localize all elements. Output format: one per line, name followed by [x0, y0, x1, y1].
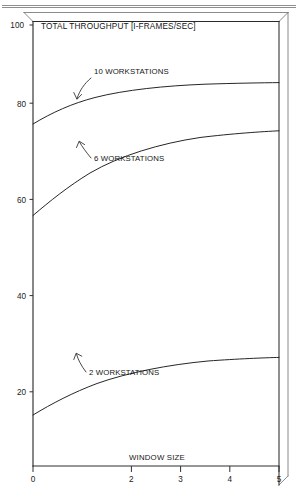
- annotation-label-6-workstations: 6 WORKSTATIONS: [94, 154, 164, 163]
- annotation-label-2-workstations: 2 WORKSTATIONS: [89, 368, 159, 377]
- annotation-label-10-workstations: 10 WORKSTATIONS: [94, 67, 169, 76]
- annotation-10-workstations: 10 WORKSTATIONS: [74, 67, 169, 99]
- page-artifact: [2, 6, 296, 8]
- chart-axes: [30, 22, 280, 473]
- figure-root: 100 80 60 40 20 0 2 3 4 5 TOTAL THROUGHP…: [0, 0, 298, 503]
- annotation-2-workstations: 2 WORKSTATIONS: [74, 353, 159, 377]
- x-axis-tick-labels: 0 2 3 4 5: [31, 475, 282, 484]
- leader-line-6-workstations: [80, 142, 92, 158]
- series-curve-2-workstations: [33, 357, 279, 415]
- series-curve-10-workstations: [33, 83, 279, 124]
- y-tick-label-40: 40: [17, 292, 27, 301]
- chart-canvas: 100 80 60 40 20 0 2 3 4 5 TOTAL THROUGHP…: [0, 0, 298, 503]
- x-tick-label-2: 2: [129, 475, 134, 484]
- y-tick-label-60: 60: [17, 196, 27, 205]
- series-curve-6-workstations: [33, 131, 279, 216]
- leader-line-10-workstations: [77, 78, 91, 99]
- y-axis-tick-labels: 100 80 60 40 20: [10, 21, 26, 397]
- frame-bevel-top-left: [24, 13, 33, 22]
- annotation-6-workstations: 6 WORKSTATIONS: [77, 141, 165, 163]
- frame-bevel-top-right: [279, 13, 288, 22]
- leader-line-2-workstations: [77, 354, 87, 372]
- chart-title: TOTAL THROUGHPUT [I-FRAMES/SEC]: [41, 22, 196, 31]
- x-tick-label-5: 5: [277, 475, 282, 484]
- x-tick-label-3: 3: [178, 475, 183, 484]
- y-tick-label-80: 80: [17, 100, 27, 109]
- x-axis-title: WINDOW SIZE: [129, 453, 185, 462]
- y-tick-label-20: 20: [17, 388, 27, 397]
- y-tick-label-100: 100: [10, 21, 24, 30]
- data-series-group: [33, 83, 279, 415]
- x-tick-label-0: 0: [31, 475, 36, 484]
- x-tick-label-4: 4: [228, 475, 233, 484]
